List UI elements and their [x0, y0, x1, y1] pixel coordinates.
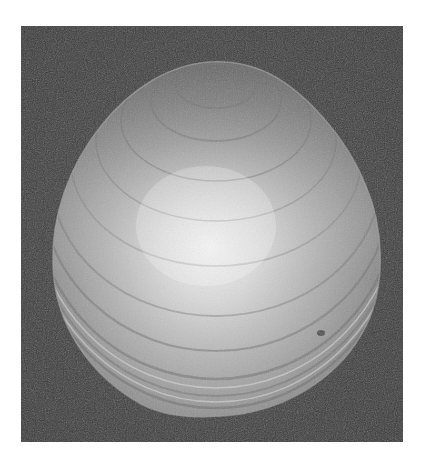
- image-canvas: [0, 0, 426, 465]
- shell-illustration: [21, 26, 403, 442]
- shell-photograph: [21, 26, 403, 442]
- dark-spot: [317, 330, 325, 336]
